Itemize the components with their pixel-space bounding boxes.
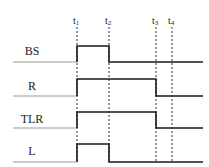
time-marker-label-t2: t2 [105, 15, 112, 27]
time-markers: t1t2t3t4 [73, 15, 175, 163]
signal-label: L [28, 144, 35, 158]
signal-l: L [13, 144, 203, 162]
signal-label: BS [25, 44, 40, 58]
signal-r: R [13, 79, 203, 96]
signal-bs: BS [13, 44, 203, 62]
time-marker-label-t3: t3 [152, 15, 159, 27]
signal-label: TLR [21, 112, 44, 126]
signal-tlr: TLR [13, 112, 203, 128]
signal-waveform [77, 144, 203, 162]
signal-waveform [77, 112, 203, 128]
signal-waveform [77, 79, 203, 96]
signal-waveform [77, 46, 203, 62]
time-marker-label-t1: t1 [73, 15, 80, 27]
signal-traces: BSRTLRL [13, 44, 203, 162]
time-marker-label-t4: t4 [168, 15, 175, 27]
timing-diagram: t1t2t3t4 BSRTLRL [0, 0, 209, 167]
signal-label: R [28, 79, 36, 93]
